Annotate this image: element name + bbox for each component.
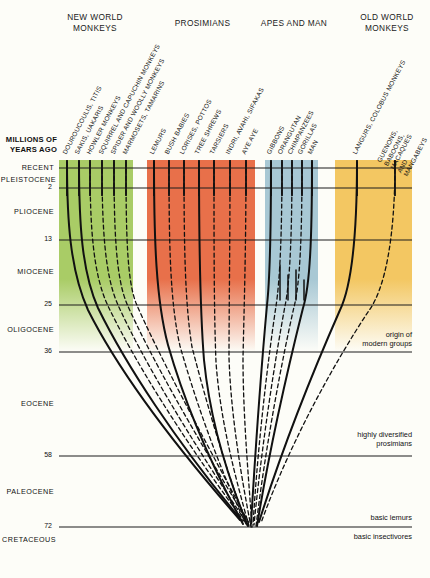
tick-value-13: 13 [28,235,52,242]
tick-value-2: 2 [28,183,52,190]
group-header-apes-and-man: APES AND MAN [248,18,340,29]
era-label-oligocene: OLIGOCENE [0,325,54,334]
annotation-basic-insectivores: basic insectivores [322,532,412,541]
tick-value-25: 25 [28,300,52,307]
tick-value-58: 58 [28,451,52,458]
annotation-highly-diversified-prosimians: highly diversified prosimians [322,430,412,449]
era-label-pliocene: PLIOCENE [0,207,54,216]
color-bands [59,160,412,352]
group-header-prosimians: PROSIMIANS [155,18,250,29]
group-header-new-world-monkeys: NEW WORLD MONKEYS [50,12,140,33]
annotation-basic-lemurs: basic lemurs [330,513,412,522]
band-old-world-monkeys [335,160,412,352]
tick-value-72: 72 [28,522,52,529]
era-label-recent: RECENT [0,163,54,172]
group-header-old-world-monkeys: OLD WORLD MONKEYS [344,12,430,33]
y-axis-title: MILLIONS OF YEARS AGO [0,135,57,154]
primate-phylogeny-chart [0,0,430,578]
era-label-paleocene: PALEOCENE [0,487,54,496]
annotation-origin-of-modern-groups: origin of modern groups [330,330,412,349]
era-label-cretaceous: CRETACEOUS [0,535,56,544]
era-label-eocene: EOCENE [0,399,54,408]
era-label-miocene: MIOCENE [0,267,54,276]
tick-value-36: 36 [28,347,52,354]
